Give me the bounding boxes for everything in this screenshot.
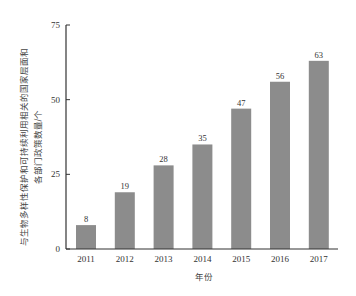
y-tick-label: 75 — [51, 20, 61, 30]
bar-2013 — [154, 165, 174, 249]
bar-value-label: 35 — [198, 133, 207, 143]
y-tick-label: 25 — [51, 169, 61, 179]
x-tick-label: 2016 — [271, 254, 290, 264]
bar-value-label: 47 — [237, 98, 246, 108]
bar-value-label: 8 — [84, 214, 88, 224]
bar-value-label: 63 — [315, 50, 324, 60]
y-tick-label: 50 — [51, 95, 61, 105]
svg-text:与生物多样性保护和可持续利用相关的国家层面和: 与生物多样性保护和可持续利用相关的国家层面和 — [19, 48, 29, 246]
bar-2017 — [309, 61, 329, 249]
bar-2012 — [115, 192, 135, 249]
x-tick-label: 2015 — [232, 254, 251, 264]
bar-value-label: 56 — [276, 71, 285, 81]
x-axis: 2011201220132014201520162017 — [66, 249, 338, 264]
x-tick-label: 2014 — [193, 254, 212, 264]
x-tick-label: 2017 — [310, 254, 329, 264]
y-tick-label: 0 — [56, 244, 61, 254]
x-tick-label: 2013 — [155, 254, 174, 264]
x-axis-label: 年份 — [195, 272, 213, 282]
y-axis: 0255075 — [51, 20, 70, 254]
bar-value-label: 19 — [121, 181, 130, 191]
bar-2016 — [270, 82, 290, 249]
x-tick-label: 2011 — [77, 254, 95, 264]
bar-value-label: 28 — [159, 154, 168, 164]
bar-2011 — [76, 225, 96, 249]
bar-chart: 0255075 8192835475663 201120122013201420… — [0, 0, 356, 296]
bar-2015 — [231, 109, 251, 249]
bar-2014 — [192, 144, 212, 249]
x-tick-label: 2012 — [116, 254, 134, 264]
bars: 8192835475663 — [76, 50, 329, 249]
y-axis-label: 与生物多样性保护和可持续利用相关的国家层面和 各部门政策数量/个 — [19, 48, 43, 246]
svg-text:各部门政策数量/个: 各部门政策数量/个 — [33, 110, 43, 185]
